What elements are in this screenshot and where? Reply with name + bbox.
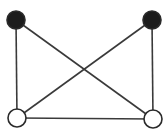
edge-B-D [152,20,153,119]
graph-diagram [0,0,166,138]
edge-C-D [17,118,153,119]
edge-A-C [16,20,17,118]
node-D [144,110,162,128]
node-A [7,11,25,29]
node-C [8,109,26,127]
node-B [143,11,161,29]
